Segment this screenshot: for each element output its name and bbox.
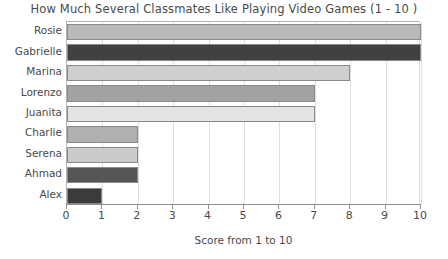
bar-row	[67, 126, 419, 142]
bar-gabrielle[interactable]	[67, 44, 421, 60]
gridline	[421, 22, 422, 205]
bar-row	[67, 147, 419, 163]
x-tick-label: 4	[195, 209, 221, 222]
bar-juanita[interactable]	[67, 106, 315, 122]
bar-charlie[interactable]	[67, 126, 138, 142]
y-axis-label-gabrielle: Gabrielle	[0, 45, 62, 57]
x-tick-label: 3	[159, 209, 185, 222]
bar-marina[interactable]	[67, 65, 350, 81]
bar-row	[67, 106, 419, 122]
x-tick-label: 0	[53, 209, 79, 222]
x-tick-label: 1	[88, 209, 114, 222]
bar-row	[67, 167, 419, 183]
y-axis-label-charlie: Charlie	[0, 126, 62, 138]
plot-area	[66, 21, 420, 205]
x-tick-label: 6	[265, 209, 291, 222]
y-axis-label-rosie: Rosie	[0, 24, 62, 36]
y-axis-label-juanita: Juanita	[0, 106, 62, 118]
x-axis-title: Score from 1 to 10	[66, 234, 421, 246]
y-axis-label-alex: Alex	[0, 188, 62, 200]
bar-row	[67, 65, 419, 81]
y-axis-label-marina: Marina	[0, 65, 62, 77]
y-axis-label-lorenzo: Lorenzo	[0, 86, 62, 98]
x-tick-label: 10	[407, 209, 433, 222]
x-tick-label: 8	[336, 209, 362, 222]
bar-rosie[interactable]	[67, 24, 421, 40]
bar-row	[67, 188, 419, 204]
bar-row	[67, 85, 419, 101]
y-axis-label-ahmad: Ahmad	[0, 167, 62, 179]
x-tick-label: 7	[301, 209, 327, 222]
bar-ahmad[interactable]	[67, 167, 138, 183]
x-tick-label: 9	[372, 209, 398, 222]
chart-title: How Much Several Classmates Like Playing…	[0, 2, 448, 16]
bar-serena[interactable]	[67, 147, 138, 163]
bar-alex[interactable]	[67, 188, 102, 204]
bars-layer	[67, 22, 419, 205]
x-tick-label: 2	[124, 209, 150, 222]
x-tick-label: 5	[230, 209, 256, 222]
y-axis-labels: RosieGabrielleMarinaLorenzoJuanitaCharli…	[0, 21, 62, 205]
y-axis-label-serena: Serena	[0, 147, 62, 159]
bar-lorenzo[interactable]	[67, 85, 315, 101]
bar-chart: How Much Several Classmates Like Playing…	[0, 0, 448, 259]
x-axis-ticks: 012345678910	[0, 205, 448, 225]
bar-row	[67, 44, 419, 60]
bar-row	[67, 24, 419, 40]
